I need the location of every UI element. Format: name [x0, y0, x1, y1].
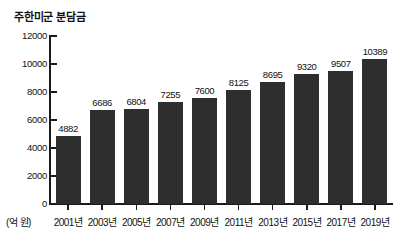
y-axis-tick-label: 12000: [22, 30, 47, 41]
x-axis-tick: [204, 205, 206, 210]
axis-unit-label: (억 원): [6, 214, 31, 229]
bar-value-label: 9507: [319, 58, 363, 69]
x-axis-tick: [136, 205, 138, 210]
bar: [362, 59, 387, 204]
bar: [192, 98, 217, 204]
x-axis-tick: [170, 205, 172, 210]
y-axis-tick-label: 4000: [27, 142, 47, 153]
x-axis-tick: [101, 205, 103, 210]
bar: [260, 82, 285, 204]
x-axis-tick: [306, 205, 308, 210]
bar: [294, 74, 319, 204]
y-axis-tick: [50, 63, 57, 65]
x-axis-tick: [340, 205, 342, 210]
bar: [124, 109, 149, 204]
bar-chart: 주한미군 분담금 020004000600080001000012000 488…: [0, 0, 403, 238]
y-axis-tick-label: 6000: [27, 114, 47, 125]
bar: [328, 71, 353, 204]
y-axis-tick-label: 0: [42, 198, 47, 209]
x-axis-tick: [67, 205, 69, 210]
bar-value-label: 4882: [46, 123, 90, 134]
y-axis-tick-label: 8000: [27, 86, 47, 97]
x-axis-tick-label: 2019년: [352, 214, 398, 229]
x-axis-tick: [374, 205, 376, 210]
y-axis-tick: [50, 91, 57, 93]
y-axis-tick: [50, 35, 57, 37]
x-axis-tick: [238, 205, 240, 210]
x-axis-tick: [272, 205, 274, 210]
y-axis-tick-label: 2000: [27, 170, 47, 181]
y-axis-tick: [50, 119, 57, 121]
bar: [90, 110, 115, 204]
bar: [56, 136, 81, 204]
y-axis-tick-label: 10000: [22, 58, 47, 69]
chart-title: 주한미군 분담금: [14, 8, 85, 24]
bar-value-label: 10389: [353, 46, 397, 57]
bar: [226, 90, 251, 204]
bar: [158, 102, 183, 204]
